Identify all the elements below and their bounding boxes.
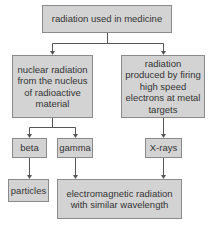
node-label: X-rays <box>150 142 177 154</box>
connector-root-split <box>53 33 164 52</box>
node-label: radiation produced by firing high speed … <box>124 58 202 116</box>
node-label: particles <box>11 185 46 197</box>
node-particles: particles <box>8 179 49 202</box>
node-gamma: gamma <box>57 138 93 158</box>
node-beta: beta <box>12 138 47 158</box>
node-label: nuclear radiation from the nucleus of ra… <box>15 64 90 110</box>
node-radiation-produced: radiation produced by firing high speed … <box>121 55 205 118</box>
node-electromagnetic-radiation: electromagnetic radiation with similar w… <box>57 179 182 219</box>
node-label: gamma <box>59 142 91 154</box>
node-label: radiation used in medicine <box>52 13 162 25</box>
node-x-rays: X-rays <box>145 138 182 158</box>
node-label: beta <box>20 142 39 154</box>
node-label: electromagnetic radiation with similar w… <box>60 188 179 211</box>
node-nuclear-radiation: nuclear radiation from the nucleus of ra… <box>12 55 93 118</box>
connector-nuclear-split <box>30 118 76 135</box>
node-radiation-used-in-medicine: radiation used in medicine <box>42 5 172 33</box>
